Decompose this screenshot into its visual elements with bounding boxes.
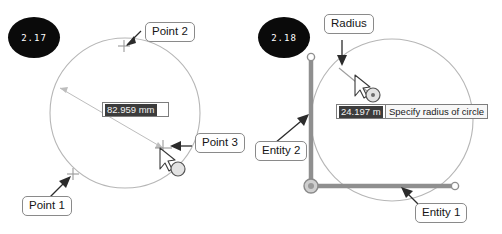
callout-entity-1-label: Entity 1: [422, 206, 460, 218]
callout-point-1: Point 1: [22, 196, 72, 216]
entity-2-endpoint-handle[interactable]: [307, 53, 314, 60]
measurement-value-217: 82.959 mm: [105, 104, 157, 116]
callout-point-1-label: Point 1: [29, 199, 65, 211]
circle-geometry: [311, 39, 473, 201]
callout-point-3-label: Point 3: [202, 136, 238, 148]
circle-tool-icon: [171, 162, 185, 176]
callout-entity-2: Entity 2: [255, 141, 307, 161]
dimension-arrow-end: [155, 142, 163, 148]
measurement-field-217[interactable]: 82.959 mm: [102, 102, 169, 117]
callout-radius-label: Radius: [331, 17, 367, 29]
callout-entity-1: Entity 1: [415, 203, 467, 223]
figure-badge-218: 2.18: [258, 17, 310, 58]
leader-arrow-radius: [337, 55, 347, 66]
callout-point-2-label: Point 2: [152, 25, 188, 37]
leader-arrow-point-3: [170, 141, 181, 151]
callout-point-2: Point 2: [145, 22, 195, 42]
circle-tool-icon: [366, 88, 380, 102]
callout-entity-2-label: Entity 2: [262, 144, 300, 156]
radius-input-value: 24.197 m: [339, 106, 383, 118]
radius-tooltip: Specify radius of circle: [385, 104, 488, 119]
figure-badge-217: 2.17: [8, 17, 60, 58]
figure-panel-218: 2.18 Radius Entity 2 Entity 1 24.197 m S…: [251, 0, 502, 234]
figure-badge-218-label: 2.18: [271, 33, 297, 43]
origin-node-center: [308, 183, 314, 189]
callout-radius: Radius: [324, 14, 374, 34]
entity-1-endpoint-handle[interactable]: [451, 182, 458, 189]
leader-arrow-entity-2: [297, 114, 309, 126]
figure-panel-217: 2.17 Point 2 Point 3 Point 1 82.959 mm: [0, 0, 251, 234]
figure-badge-217-label: 2.17: [21, 33, 47, 43]
dimension-line: [60, 88, 163, 148]
radius-tooltip-text: Specify radius of circle: [389, 106, 484, 117]
callout-point-3: Point 3: [195, 133, 245, 153]
